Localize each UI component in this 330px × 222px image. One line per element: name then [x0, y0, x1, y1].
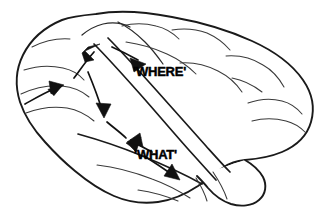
where-stream-label: 'WHERE': [133, 64, 186, 79]
brain-outline-group: [17, 12, 313, 206]
brain-lateral-view-svg: 'WHERE' 'WHAT': [0, 0, 330, 222]
brain-diagram-figure: 'WHERE' 'WHAT': [0, 0, 330, 222]
what-stream-label: 'WHAT': [134, 147, 177, 162]
